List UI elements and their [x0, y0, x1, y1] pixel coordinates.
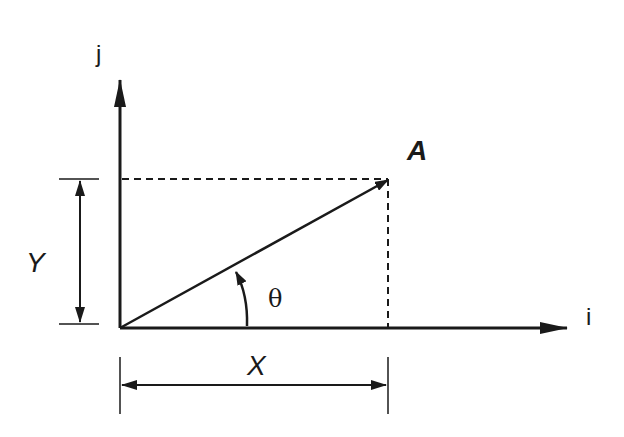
vector-diagram: j i A θ Y X: [0, 0, 624, 437]
y-component-label: Y: [26, 247, 47, 278]
vector-a-label: A: [406, 135, 427, 166]
j-axis-label: j: [95, 40, 101, 67]
i-axis-label: i: [586, 303, 591, 330]
vector-a-arrow: [120, 180, 388, 328]
angle-theta-label: θ: [268, 285, 282, 313]
y-dimension: [59, 179, 99, 324]
angle-arc: [236, 272, 247, 326]
x-component-label: X: [246, 350, 267, 381]
